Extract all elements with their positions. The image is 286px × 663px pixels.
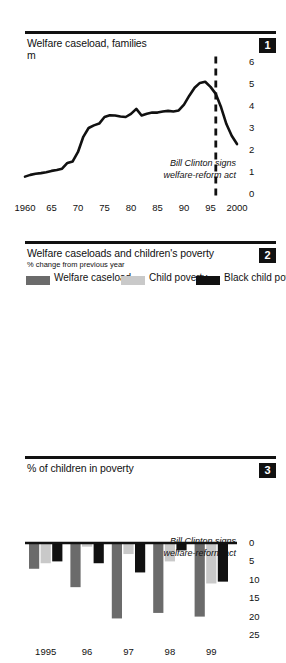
- legend-text: Black child poverty: [224, 272, 286, 283]
- panel-title: Welfare caseloads and children's poverty: [27, 247, 214, 259]
- legend-swatch-welfare-caseload: [26, 276, 50, 285]
- chart-legend: Welfare caseload Child poverty Black chi…: [26, 274, 276, 304]
- reform-annotation: Bill Clinton signs welfare-reform act: [163, 536, 236, 559]
- legend-label-black-child-poverty: Black child poverty: [224, 272, 286, 284]
- y-tick-label: 0: [249, 188, 271, 199]
- y-tick-label: 3: [249, 122, 271, 133]
- legend-text: Welfare caseload: [54, 272, 131, 283]
- panel-number-badge: 3: [259, 463, 276, 478]
- annotation-line-1: Bill Clinton signs: [163, 158, 236, 170]
- panel-rule: [25, 31, 276, 34]
- annotation-line-2: welfare-reform act: [163, 548, 236, 560]
- y-tick-label: 5: [249, 78, 271, 89]
- reform-annotation: Bill Clinton signs welfare-reform act: [163, 158, 236, 181]
- legend-swatch-child-poverty: [121, 276, 145, 285]
- annotation-line-2: welfare-reform act: [163, 170, 236, 182]
- annotation-line-1: Bill Clinton signs: [163, 536, 236, 548]
- panel-rule: [25, 456, 276, 459]
- y-tick-label: 4: [249, 100, 271, 111]
- y-tick-label: 1: [249, 166, 271, 177]
- panel-number-badge: 1: [259, 38, 276, 53]
- panel-title: % of children in poverty: [27, 462, 134, 474]
- x-tick-label: 2000: [217, 202, 257, 213]
- y-tick-label: 2: [249, 144, 271, 155]
- legend-label-welfare-caseload: Welfare caseload: [54, 272, 131, 284]
- panel-subtitle: % change from previous year: [27, 260, 125, 269]
- panel-title: Welfare caseload, families: [27, 37, 147, 49]
- panel-children-in-poverty: 3 % of children in poverty 051015202530 …: [0, 442, 286, 663]
- panel-number-badge: 2: [259, 248, 276, 263]
- economist-three-panel-figure: 1 Welfare caseload, families m 0123456 1…: [0, 0, 286, 663]
- panel-caseloads-and-poverty: 2 Welfare caseloads and children's pover…: [0, 228, 286, 440]
- legend-swatch-black-child-poverty: [196, 276, 220, 285]
- panel-unit-label: m: [27, 49, 36, 61]
- y-tick-label: 6: [249, 56, 271, 67]
- panel-rule: [25, 241, 276, 244]
- panel-welfare-caseload: 1 Welfare caseload, families m 0123456 1…: [0, 0, 286, 222]
